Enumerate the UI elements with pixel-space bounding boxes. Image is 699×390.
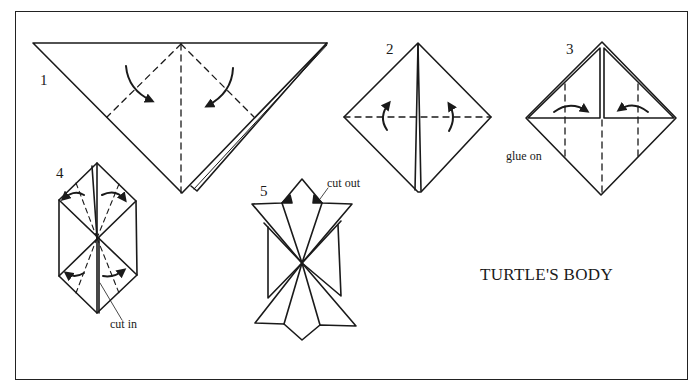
step-5-figure [252, 179, 356, 340]
origami-diagram [0, 0, 699, 390]
cut-in-label: cut in [110, 318, 137, 330]
fold-arrow-icon [66, 273, 84, 276]
step-2-figure [344, 43, 491, 192]
step-2-number: 2 [386, 42, 394, 57]
step-3-number: 3 [566, 42, 574, 57]
step-4-figure [59, 163, 137, 320]
diagram-title: TURTLE'S BODY [480, 266, 613, 283]
step-3-figure [526, 42, 676, 195]
fold-arrow-icon [554, 106, 587, 112]
fold-arrow-icon [207, 68, 233, 106]
cut-out-label: cut out [327, 177, 360, 189]
fold-arrow-icon [126, 66, 152, 101]
step-5-number: 5 [260, 184, 268, 199]
glue-on-label: glue on [506, 150, 542, 162]
step-4-number: 4 [56, 166, 64, 181]
fold-arrow-icon [103, 270, 124, 276]
cut-out-notch-icon [313, 195, 322, 203]
step-1-number: 1 [40, 73, 48, 88]
step-1-figure [33, 43, 327, 193]
fold-arrow-icon [449, 104, 453, 131]
fold-arrow-icon [619, 105, 648, 112]
